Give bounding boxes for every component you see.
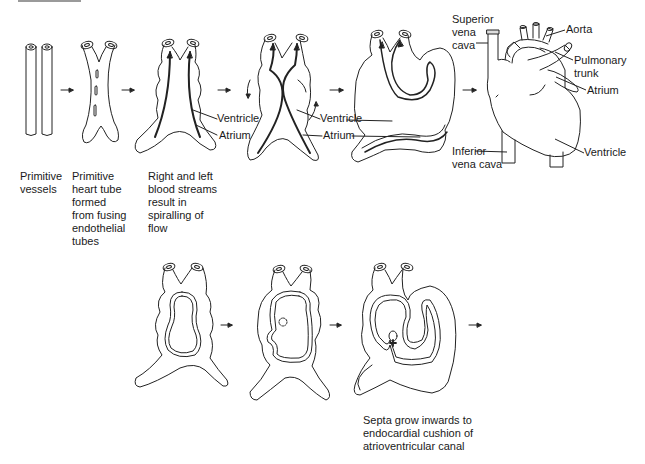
label-inferior-vena-cava: Inferior vena cava: [452, 145, 502, 171]
label-atrium-mature: Atrium: [587, 84, 619, 97]
caption-line: atrioventricular canal: [363, 440, 473, 453]
label-aorta: Aorta: [566, 23, 592, 36]
caption-line: endocardial cushion of: [363, 427, 473, 440]
label-line: vena cava: [452, 158, 502, 171]
label-line: Inferior: [452, 145, 502, 158]
label-line: trunk: [574, 67, 627, 80]
label-line: Pulmonary: [574, 54, 627, 67]
caption-septa-growth: Septa grow inwards to endocardial cushio…: [363, 414, 473, 453]
caption-line: Septa grow inwards to: [363, 414, 473, 427]
label-ventricle-mature: Ventricle: [584, 146, 626, 159]
leader-lines: [0, 0, 645, 464]
label-pulmonary-trunk: Pulmonary trunk: [574, 54, 627, 80]
